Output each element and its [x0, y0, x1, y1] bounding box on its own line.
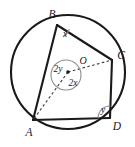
centre-label-O: O: [79, 55, 86, 66]
angle-label-x-at-B: x: [62, 29, 68, 39]
angle-label-2y-at-O: 2y: [54, 64, 64, 74]
circle-geometry-diagram: B C D A O x y 2y 2x: [0, 0, 135, 147]
vertex-label-D: D: [112, 120, 122, 132]
angle-label-y-at-D: y: [100, 105, 106, 115]
vertex-label-A: A: [24, 126, 33, 138]
angle-label-2x-at-O: 2x: [69, 78, 79, 88]
centre-point-dot: [66, 70, 70, 74]
radius-OC-dashed: [68, 60, 112, 72]
diagram-canvas: B C D A O x y 2y 2x: [0, 0, 135, 147]
vertex-label-B: B: [48, 8, 55, 20]
vertex-label-C: C: [117, 49, 125, 61]
